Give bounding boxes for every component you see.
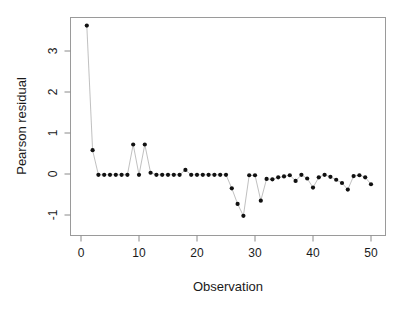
data-point (294, 179, 298, 183)
data-point (183, 168, 187, 172)
y-axis-label: Pearson residual (14, 77, 29, 175)
data-point (270, 177, 274, 181)
y-axis-tick-labels: -10123 (46, 47, 60, 220)
data-point (137, 173, 141, 177)
data-point (207, 173, 211, 177)
data-point (346, 187, 350, 191)
data-point (317, 175, 321, 179)
data-point (154, 173, 158, 177)
y-tick-label: 2 (46, 88, 60, 95)
data-point (108, 173, 112, 177)
x-axis-tick-labels: 01020304050 (78, 246, 378, 260)
data-point (340, 181, 344, 185)
x-tick-label: 20 (190, 246, 204, 260)
data-point (253, 173, 257, 177)
x-tick-label: 0 (78, 246, 85, 260)
data-point (178, 173, 182, 177)
data-point (195, 173, 199, 177)
data-point (189, 173, 193, 177)
data-point (369, 182, 373, 186)
data-point (311, 185, 315, 189)
data-point (143, 142, 147, 146)
y-tick-label: 3 (46, 47, 60, 54)
data-point (334, 178, 338, 182)
x-axis-ticks (81, 236, 371, 242)
x-tick-label: 50 (364, 246, 378, 260)
data-point (282, 174, 286, 178)
data-point (120, 173, 124, 177)
plot-frame (71, 18, 386, 236)
data-point (85, 23, 89, 27)
x-tick-label: 10 (132, 246, 146, 260)
data-point (247, 173, 251, 177)
data-point (125, 173, 129, 177)
data-point (172, 173, 176, 177)
data-point (224, 173, 228, 177)
series-line (87, 26, 371, 216)
data-point (218, 173, 222, 177)
x-axis-label: Observation (193, 279, 263, 294)
data-point (323, 173, 327, 177)
x-tick-label: 30 (248, 246, 262, 260)
data-point (96, 173, 100, 177)
data-point (288, 173, 292, 177)
data-point (166, 173, 170, 177)
y-axis-ticks (65, 51, 71, 215)
data-point (236, 202, 240, 206)
y-tick-label: 0 (46, 170, 60, 177)
data-point (114, 173, 118, 177)
data-point (363, 175, 367, 179)
data-point (201, 173, 205, 177)
x-tick-label: 40 (306, 246, 320, 260)
data-point (241, 214, 245, 218)
data-point (230, 186, 234, 190)
y-tick-label: -1 (46, 209, 60, 220)
data-point (149, 171, 153, 175)
data-point (305, 176, 309, 180)
data-point (259, 199, 263, 203)
data-point (328, 175, 332, 179)
data-point (102, 173, 106, 177)
data-point (91, 148, 95, 152)
data-point (265, 177, 269, 181)
data-point (160, 173, 164, 177)
chart-figure: -10123 01020304050 Pearson residual Obse… (0, 0, 394, 309)
data-point (357, 173, 361, 177)
data-point (131, 142, 135, 146)
data-point (299, 173, 303, 177)
data-point (276, 175, 280, 179)
pearson-residual-plot: -10123 01020304050 Pearson residual Obse… (0, 0, 394, 309)
y-tick-label: 1 (46, 129, 60, 136)
data-point (352, 174, 356, 178)
data-point (212, 173, 216, 177)
series-points (85, 23, 373, 217)
